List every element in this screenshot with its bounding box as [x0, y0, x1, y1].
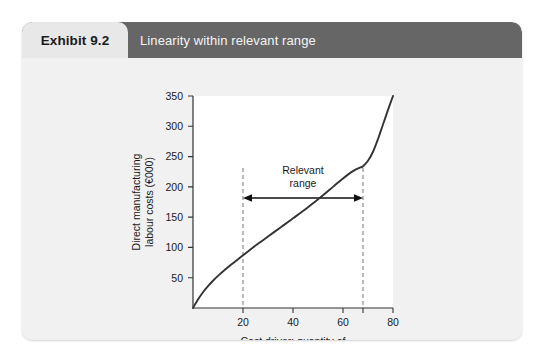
exhibit-title: Linearity within relevant range [140, 22, 316, 58]
exhibit-number-tab: Exhibit 9.2 [22, 22, 128, 58]
relevant-range-label-line2: range [290, 177, 317, 189]
y-axis-title-line2: labour costs (€000) [143, 157, 155, 247]
y-axis-title-line1: Direct manufacturing [130, 153, 142, 250]
x-tick-label: 80 [387, 316, 399, 328]
x-axis-title-line1: Cost driver: quantity of [240, 335, 345, 340]
x-tick-label: 20 [237, 316, 249, 328]
x-tick-label: 40 [287, 316, 299, 328]
y-tick-label: 200 [165, 181, 183, 193]
x-axis-title: Cost driver: quantity of valves produced… [240, 335, 346, 340]
y-tick-label: 300 [165, 120, 183, 132]
y-axis-title: Direct manufacturing labour costs (€000) [130, 153, 155, 250]
y-tick-label: 150 [165, 211, 183, 223]
y-tick-label: 250 [165, 150, 183, 162]
y-tick-label: 50 [171, 272, 183, 284]
exhibit-header-band: Exhibit 9.2 Linearity within relevant ra… [22, 22, 522, 58]
exhibit-number-label: Exhibit 9.2 [41, 33, 110, 48]
exhibit-body: 350 300 250 200 150 100 50 20 40 60 80 [22, 58, 522, 340]
exhibit-title-text: Linearity within relevant range [140, 33, 316, 48]
linearity-chart: 350 300 250 200 150 100 50 20 40 60 80 [22, 58, 522, 340]
x-tick-label: 60 [337, 316, 349, 328]
y-tick-label: 350 [165, 90, 183, 102]
relevant-range-label-line1: Relevant [282, 164, 324, 176]
y-tick-label: 100 [165, 241, 183, 253]
exhibit-card: Exhibit 9.2 Linearity within relevant ra… [22, 22, 522, 340]
